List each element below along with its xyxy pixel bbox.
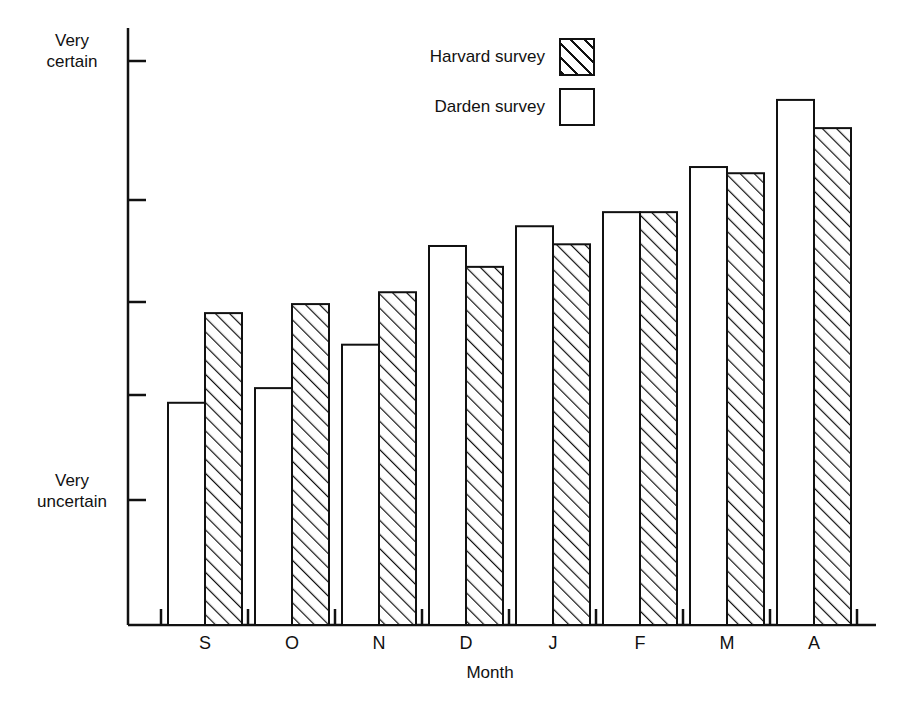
bar-harvard-o	[292, 304, 329, 625]
bar-harvard-m	[727, 173, 764, 625]
x-tick-label-f: F	[620, 633, 660, 654]
bar-harvard-j	[553, 244, 590, 625]
bar-harvard-f	[640, 212, 677, 625]
x-tick-label-n: N	[359, 633, 399, 654]
legend-label-harvard: Harvard survey	[430, 47, 545, 67]
bar-darden-j	[516, 226, 553, 625]
x-tick-label-m: M	[707, 633, 747, 654]
open-swatch-icon	[559, 88, 595, 126]
bar-darden-s	[168, 403, 205, 625]
x-tick-label-s: S	[185, 633, 225, 654]
bar-harvard-d	[466, 267, 503, 625]
bar-darden-n	[342, 345, 379, 625]
legend-label-darden: Darden survey	[434, 97, 545, 117]
bar-harvard-n	[379, 292, 416, 625]
x-tick-label-d: D	[446, 633, 486, 654]
x-tick-label-o: O	[272, 633, 312, 654]
bar-darden-o	[255, 388, 292, 625]
bar-darden-a	[777, 100, 814, 625]
legend-entry-darden: Darden survey	[355, 86, 595, 128]
hatched-swatch-icon	[559, 38, 595, 76]
bar-darden-m	[690, 167, 727, 625]
bar-darden-f	[603, 212, 640, 625]
bars	[168, 100, 851, 625]
chart-container: Very certain Very uncertain SONDJFMA Mon…	[0, 0, 900, 704]
y-axis-top-label: Very certain	[24, 30, 120, 72]
bar-darden-d	[429, 246, 466, 625]
y-axis-bottom-label: Very uncertain	[24, 470, 120, 512]
bar-harvard-a	[814, 128, 851, 625]
x-tick-label-a: A	[794, 633, 834, 654]
chart-legend: Harvard survey Darden survey	[355, 36, 595, 136]
legend-entry-harvard: Harvard survey	[355, 36, 595, 78]
bar-harvard-s	[205, 313, 242, 625]
y-axis-ticks	[128, 61, 146, 500]
x-tick-label-j: J	[533, 633, 573, 654]
x-axis-title: Month	[430, 662, 550, 683]
